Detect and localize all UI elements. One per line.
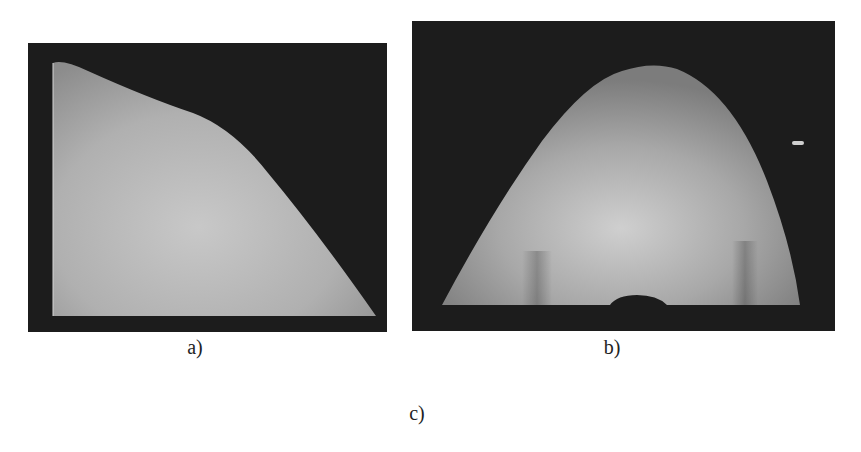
figure-panel-a: [28, 43, 387, 332]
caption-a: a): [165, 336, 225, 359]
marker-glyph: [792, 141, 804, 145]
surface-render-b: [412, 21, 835, 331]
caption-c: c): [387, 402, 447, 425]
caption-b: b): [582, 336, 642, 359]
surface-render-a: [28, 43, 387, 332]
figure-panel-b: [412, 21, 835, 331]
